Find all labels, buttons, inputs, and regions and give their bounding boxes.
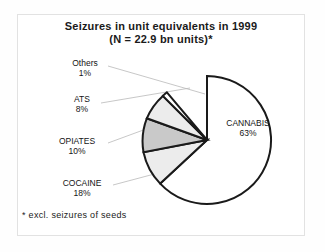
- pie-label-cannabis-value: 63%: [216, 128, 280, 138]
- pie-label-cannabis: CANNABIS 63%: [216, 118, 280, 138]
- pie-label-others: Others 1%: [62, 58, 108, 78]
- pie-label-ats-value: 8%: [62, 104, 102, 114]
- chart-footnote: * excl. seizures of seeds: [22, 210, 127, 220]
- pie-label-others-name: Others: [72, 58, 98, 68]
- pie-chart: [141, 74, 273, 206]
- pie-label-cannabis-name: CANNABIS: [226, 118, 269, 128]
- pie-label-others-value: 1%: [62, 68, 108, 78]
- pie-label-opiates-value: 10%: [46, 146, 108, 156]
- pie-label-opiates-name: OPIATES: [59, 136, 95, 146]
- pie-label-opiates: OPIATES 10%: [46, 136, 108, 156]
- pie-label-cocaine-name: COCAINE: [63, 178, 102, 188]
- pie-label-cocaine-value: 18%: [50, 188, 114, 198]
- pie-label-ats-name: ATS: [74, 94, 90, 104]
- chart-figure: Seizures in unit equivalents in 1999 (N …: [0, 0, 325, 252]
- pie-label-ats: ATS 8%: [62, 94, 102, 114]
- pie-label-cocaine: COCAINE 18%: [50, 178, 114, 198]
